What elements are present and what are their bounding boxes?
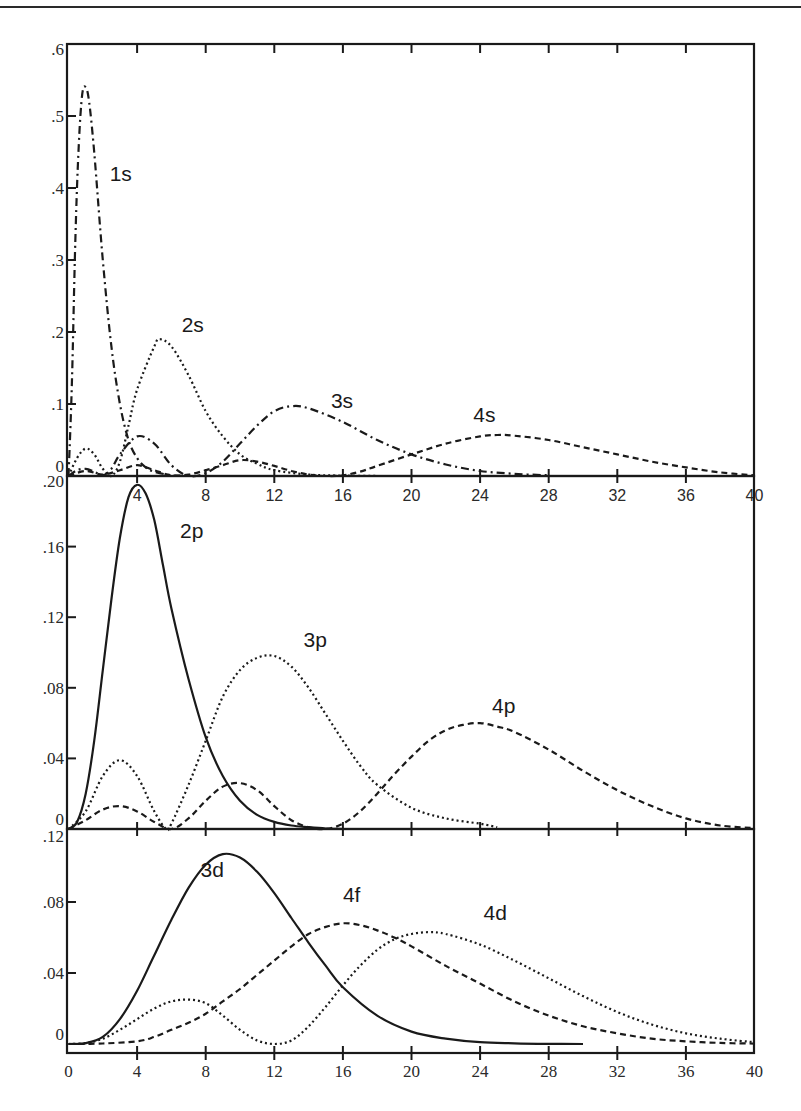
- x-tick-label: 28: [540, 1062, 557, 1081]
- curve-label-2s: 2s: [182, 313, 204, 336]
- curve-4d: [69, 932, 755, 1044]
- middle-panel-labels: 2p3p4p: [180, 519, 515, 717]
- middle-panel-frame: [67, 476, 754, 829]
- x-tick-label: 8: [201, 487, 210, 504]
- middle-panel-curves: [69, 485, 755, 830]
- x-tick-label: 12: [265, 487, 283, 504]
- y-tick-label: .04: [43, 964, 65, 983]
- x-tick-label: 24: [472, 1062, 490, 1081]
- curve-label-2p: 2p: [180, 519, 203, 542]
- x-tick-label: 32: [608, 487, 626, 504]
- x-tick-label: 24: [471, 487, 489, 504]
- y-tick-label: .3: [51, 251, 64, 270]
- x-tick-label: 0: [64, 1062, 73, 1081]
- curve-label-4f: 4f: [343, 883, 361, 906]
- curve-3p: [69, 655, 498, 830]
- top-panel: 4812162024283236400.1.2.3.4.5.6 1s2s3s4s: [51, 40, 763, 504]
- x-tick-label: 20: [403, 487, 421, 504]
- curve-label-1s: 1s: [110, 162, 132, 185]
- curve-label-4s: 4s: [473, 403, 495, 426]
- top-panel-ticks: 4812162024283236400.1.2.3.4.5.6: [51, 40, 763, 504]
- x-tick-label: 36: [677, 487, 695, 504]
- x-tick-label: 16: [334, 1062, 351, 1081]
- x-tick-label: 16: [334, 487, 352, 504]
- y-tick-label: 0: [56, 1025, 65, 1044]
- middle-panel-ticks: 0.04.08.12.16.20: [43, 472, 686, 836]
- y-tick-label: .5: [51, 107, 64, 126]
- bottom-panel-ticks: 04812162024283236400.04.08.12: [43, 827, 763, 1081]
- y-tick-label: .20: [43, 472, 64, 491]
- bottom-panel-curves: [69, 854, 755, 1044]
- y-tick-label: .16: [43, 538, 64, 557]
- y-tick-label: .08: [43, 893, 64, 912]
- curve-3d: [69, 854, 584, 1044]
- y-tick-label: .4: [51, 179, 64, 198]
- y-tick-label: .1: [51, 395, 64, 414]
- curve-label-3d: 3d: [201, 858, 224, 881]
- x-tick-label: 40: [746, 1062, 763, 1081]
- curve-4p: [69, 723, 755, 829]
- y-tick-label: .04: [43, 749, 65, 768]
- middle-panel: 0.04.08.12.16.20 2p3p4p: [43, 472, 755, 836]
- x-tick-label: 28: [540, 487, 558, 504]
- x-tick-label: 4: [133, 1062, 142, 1081]
- curve-4f: [69, 923, 755, 1044]
- curve-label-4d: 4d: [484, 901, 507, 924]
- x-tick-label: 32: [609, 1062, 626, 1081]
- radial-distribution-chart: 4812162024283236400.1.2.3.4.5.6 1s2s3s4s…: [0, 0, 801, 1111]
- curve-2p: [69, 485, 343, 829]
- curve-label-4p: 4p: [492, 694, 515, 717]
- y-tick-label: .08: [43, 679, 64, 698]
- top-panel-frame: [67, 44, 754, 476]
- x-tick-label: 36: [677, 1062, 694, 1081]
- top-panel-labels: 1s2s3s4s: [110, 162, 496, 426]
- curve-label-3s: 3s: [331, 389, 353, 412]
- y-tick-label: .12: [43, 608, 64, 627]
- bottom-panel-labels: 3d4f4d: [201, 858, 507, 924]
- bottom-panel: 04812162024283236400.04.08.12 3d4f4d: [43, 827, 763, 1081]
- y-tick-label: .6: [51, 40, 64, 59]
- x-tick-label: 4: [133, 487, 142, 504]
- x-tick-label: 12: [266, 1062, 283, 1081]
- x-tick-label: 20: [403, 1062, 420, 1081]
- bottom-panel-frame: [67, 829, 754, 1053]
- curve-1s: [69, 86, 189, 476]
- y-tick-label: .2: [51, 323, 64, 342]
- top-panel-curves: [69, 86, 755, 476]
- y-tick-label: .12: [43, 827, 64, 846]
- curve-label-3p: 3p: [303, 628, 326, 651]
- x-tick-label: 8: [201, 1062, 210, 1081]
